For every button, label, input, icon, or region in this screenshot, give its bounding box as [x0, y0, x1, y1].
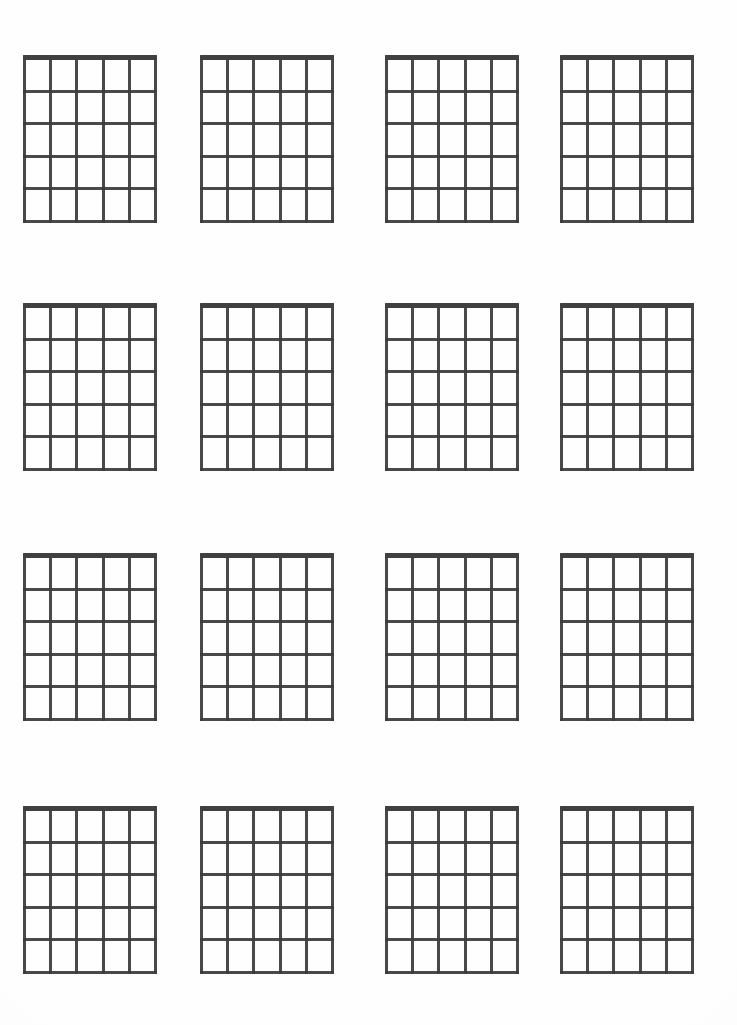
fret-line-1 [200, 841, 334, 844]
fret-line-1 [23, 841, 157, 844]
string-line-2 [226, 308, 229, 471]
string-line-6 [516, 60, 519, 223]
fret-line-3 [385, 403, 519, 406]
string-line-6 [691, 811, 694, 974]
fret-line-1 [385, 338, 519, 341]
string-line-5 [128, 60, 131, 223]
fretboard [385, 60, 519, 223]
string-line-3 [75, 558, 78, 721]
fret-line-5 [560, 971, 694, 974]
fret-line-2 [560, 620, 694, 623]
fret-line-5 [385, 971, 519, 974]
string-line-5 [305, 308, 308, 471]
chord-diagram-16[interactable] [560, 806, 694, 974]
chord-diagram-5[interactable] [23, 303, 157, 471]
string-line-6 [154, 308, 157, 471]
string-line-5 [490, 308, 493, 471]
string-line-2 [49, 811, 52, 974]
string-line-3 [437, 308, 440, 471]
string-line-5 [490, 811, 493, 974]
fretboard [560, 558, 694, 721]
string-line-1 [200, 60, 203, 223]
string-line-5 [305, 60, 308, 223]
string-line-1 [200, 558, 203, 721]
string-line-2 [49, 60, 52, 223]
string-line-6 [516, 308, 519, 471]
string-line-5 [490, 60, 493, 223]
fret-line-2 [200, 620, 334, 623]
fretboard [385, 811, 519, 974]
string-line-1 [23, 308, 26, 471]
chord-diagram-2[interactable] [200, 55, 334, 223]
string-line-4 [639, 558, 642, 721]
string-line-4 [102, 811, 105, 974]
fret-line-5 [560, 468, 694, 471]
chord-diagram-1[interactable] [23, 55, 157, 223]
string-line-3 [612, 60, 615, 223]
string-line-4 [102, 308, 105, 471]
chord-diagram-14[interactable] [200, 806, 334, 974]
fret-line-4 [385, 187, 519, 190]
fret-line-5 [385, 718, 519, 721]
chord-diagram-7[interactable] [385, 303, 519, 471]
fret-line-3 [560, 653, 694, 656]
fret-line-2 [23, 370, 157, 373]
chord-diagram-3[interactable] [385, 55, 519, 223]
string-line-2 [586, 558, 589, 721]
string-line-1 [560, 60, 563, 223]
chord-diagram-15[interactable] [385, 806, 519, 974]
fret-line-3 [23, 155, 157, 158]
fret-line-4 [560, 938, 694, 941]
fret-line-2 [560, 122, 694, 125]
fret-line-3 [385, 155, 519, 158]
chord-diagram-11[interactable] [385, 553, 519, 721]
fret-line-5 [200, 220, 334, 223]
chord-diagram-13[interactable] [23, 806, 157, 974]
chord-diagram-10[interactable] [200, 553, 334, 721]
fretboard [560, 308, 694, 471]
string-line-3 [612, 308, 615, 471]
string-line-1 [385, 308, 388, 471]
fret-line-3 [200, 906, 334, 909]
string-line-3 [612, 558, 615, 721]
string-line-4 [279, 558, 282, 721]
string-line-5 [665, 558, 668, 721]
fret-line-2 [385, 370, 519, 373]
string-line-5 [305, 558, 308, 721]
chord-diagram-8[interactable] [560, 303, 694, 471]
fret-line-4 [23, 685, 157, 688]
fret-line-1 [200, 338, 334, 341]
fret-line-5 [23, 220, 157, 223]
fretboard [560, 811, 694, 974]
fret-line-1 [385, 588, 519, 591]
fret-line-3 [560, 403, 694, 406]
fret-line-1 [385, 90, 519, 93]
chord-diagram-4[interactable] [560, 55, 694, 223]
string-line-3 [437, 558, 440, 721]
chord-diagram-9[interactable] [23, 553, 157, 721]
fret-line-5 [23, 718, 157, 721]
fret-line-3 [200, 403, 334, 406]
fret-line-3 [23, 653, 157, 656]
string-line-4 [639, 811, 642, 974]
fret-line-4 [560, 685, 694, 688]
fretboard [560, 60, 694, 223]
string-line-1 [385, 811, 388, 974]
fret-line-5 [385, 220, 519, 223]
fret-line-2 [200, 873, 334, 876]
string-line-4 [102, 60, 105, 223]
fret-line-5 [23, 468, 157, 471]
fretboard [200, 558, 334, 721]
string-line-6 [331, 558, 334, 721]
fret-line-2 [200, 370, 334, 373]
string-line-2 [586, 60, 589, 223]
fret-line-5 [560, 220, 694, 223]
string-line-4 [464, 811, 467, 974]
chord-chart-page [0, 0, 737, 1025]
fret-line-1 [560, 338, 694, 341]
chord-diagram-6[interactable] [200, 303, 334, 471]
string-line-6 [331, 308, 334, 471]
fret-line-3 [23, 403, 157, 406]
string-line-6 [691, 308, 694, 471]
chord-diagram-12[interactable] [560, 553, 694, 721]
